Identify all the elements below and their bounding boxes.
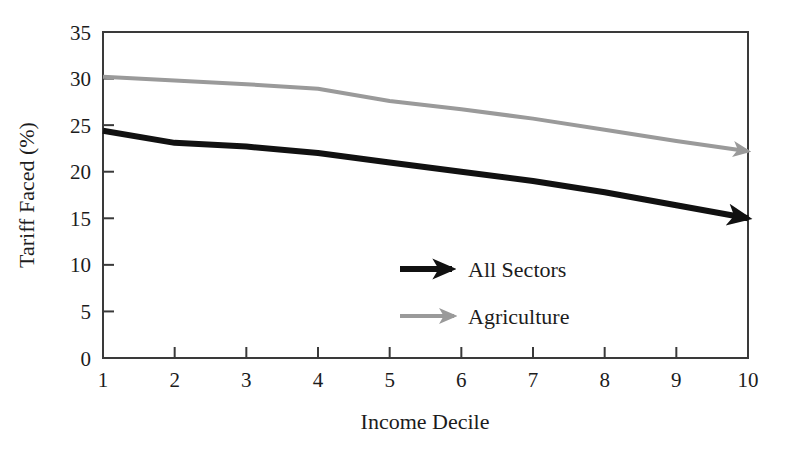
y-tick-label: 20 [70, 160, 91, 184]
legend-label-all-sectors: All Sectors [468, 257, 566, 282]
y-tick-label: 10 [70, 253, 91, 277]
chart-legend: All Sectors Agriculture [400, 257, 569, 329]
x-axis-title: Income Decile [361, 409, 490, 434]
x-tick-label: 6 [456, 368, 467, 392]
y-tick-label: 30 [70, 67, 91, 91]
y-tick-label: 0 [81, 347, 92, 371]
y-tick-label: 35 [70, 21, 91, 45]
x-tick-label: 9 [671, 368, 682, 392]
y-axis-title: Tariff Faced (%) [14, 122, 39, 268]
line-chart: 05101520253035 12345678910 Income Decile… [0, 0, 785, 451]
y-axis-tick-labels: 05101520253035 [70, 21, 91, 371]
x-axis-tick-labels: 12345678910 [98, 368, 759, 392]
y-tick-label: 5 [81, 300, 92, 324]
legend-label-agriculture: Agriculture [468, 304, 569, 329]
chart-figure: 05101520253035 12345678910 Income Decile… [0, 0, 785, 451]
x-tick-label: 4 [313, 368, 324, 392]
legend-entry-all-sectors: All Sectors [400, 257, 566, 282]
x-tick-label: 7 [528, 368, 539, 392]
x-tick-label: 3 [241, 368, 252, 392]
series-group [103, 77, 748, 219]
x-tick-label: 2 [169, 368, 180, 392]
series-line-all-sectors [103, 131, 748, 219]
y-axis-ticks [103, 32, 114, 358]
x-tick-label: 8 [599, 368, 610, 392]
x-tick-label: 1 [98, 368, 109, 392]
legend-entry-agriculture: Agriculture [400, 304, 569, 329]
x-tick-label: 10 [738, 368, 759, 392]
x-tick-label: 5 [384, 368, 395, 392]
y-tick-label: 25 [70, 114, 91, 138]
x-axis-ticks [175, 347, 677, 358]
series-line-agriculture [103, 77, 748, 152]
y-tick-label: 15 [70, 207, 91, 231]
